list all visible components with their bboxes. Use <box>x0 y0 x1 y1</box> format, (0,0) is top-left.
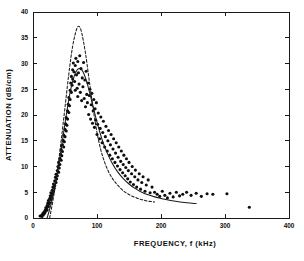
data-point <box>115 141 118 144</box>
axis-ticks <box>33 12 289 218</box>
data-point <box>129 180 132 183</box>
data-point <box>76 87 79 90</box>
x-tick-label: 400 <box>284 222 295 229</box>
data-point <box>102 120 105 123</box>
data-point <box>109 143 112 146</box>
data-point <box>140 181 143 184</box>
data-point <box>101 131 104 134</box>
data-point <box>85 70 88 73</box>
data-point <box>122 154 125 157</box>
data-point <box>178 194 181 197</box>
data-point <box>89 118 92 121</box>
data-point <box>132 183 135 186</box>
data-point <box>185 191 188 194</box>
data-point <box>93 126 96 129</box>
data-point <box>110 133 113 136</box>
data-point <box>168 192 171 195</box>
data-point <box>211 193 214 196</box>
y-tick-label: 5 <box>24 189 28 196</box>
x-tick-label: 300 <box>220 222 231 229</box>
data-point <box>206 192 209 195</box>
data-point <box>92 98 95 101</box>
data-point <box>47 205 50 208</box>
x-tick-label: 100 <box>92 222 103 229</box>
data-point <box>76 60 79 63</box>
y-axis-tick-labels: 0510152025303540 <box>21 8 29 221</box>
data-point <box>127 161 130 164</box>
data-point <box>81 85 84 88</box>
data-point <box>143 190 146 193</box>
data-point <box>161 190 164 193</box>
data-point <box>136 178 139 181</box>
data-point <box>65 124 68 127</box>
y-tick-label: 10 <box>21 163 29 170</box>
data-point <box>79 91 82 94</box>
data-point <box>130 172 133 175</box>
data-point <box>133 175 136 178</box>
data-point <box>74 64 77 67</box>
data-point <box>125 157 128 160</box>
data-point <box>120 150 123 153</box>
scatter-plot-canvas: 0100200300400 0510152025303540 FREQUENCY… <box>0 0 304 261</box>
data-point <box>111 157 114 160</box>
data-point <box>86 101 89 104</box>
data-point <box>172 195 175 198</box>
data-point <box>150 186 153 189</box>
y-tick-label: 0 <box>24 214 28 221</box>
data-point <box>63 140 66 143</box>
data-point <box>82 61 85 64</box>
data-point <box>195 192 198 195</box>
data-point <box>124 174 127 177</box>
data-point <box>91 122 94 125</box>
data-point <box>63 135 66 138</box>
data-point <box>66 118 69 121</box>
data-point <box>73 80 76 83</box>
data-point <box>78 83 81 86</box>
data-point <box>190 194 193 197</box>
data-point <box>138 172 141 175</box>
data-point <box>200 195 203 198</box>
data-point <box>65 129 68 132</box>
data-point <box>166 196 169 199</box>
plot-frame <box>33 12 289 218</box>
y-tick-label: 20 <box>21 111 29 118</box>
data-point <box>112 137 115 140</box>
data-point <box>81 76 84 79</box>
y-tick-label: 15 <box>21 137 29 144</box>
y-tick-label: 35 <box>21 34 29 41</box>
data-point <box>117 145 120 148</box>
data-point <box>84 105 87 108</box>
data-point <box>121 171 124 174</box>
x-tick-label: 0 <box>31 222 35 229</box>
data-point <box>76 95 79 98</box>
data-point <box>116 164 119 167</box>
data-point <box>67 111 70 114</box>
data-point <box>111 147 114 150</box>
data-point <box>80 99 83 102</box>
data-point <box>99 116 102 119</box>
data-point <box>114 152 117 155</box>
y-tick-label: 40 <box>21 8 29 15</box>
data-point <box>145 183 148 186</box>
data-point <box>72 61 75 64</box>
data-point <box>142 175 145 178</box>
data-point <box>118 168 121 171</box>
data-point <box>119 160 122 163</box>
x-axis-title: FREQUENCY, f (kHz) <box>134 239 216 248</box>
data-point <box>117 156 120 159</box>
data-point <box>124 166 127 169</box>
data-point <box>131 165 134 168</box>
data-point <box>175 191 178 194</box>
data-point <box>113 161 116 164</box>
y-tick-label: 30 <box>21 60 29 67</box>
data-point <box>95 101 98 104</box>
data-point <box>126 177 129 180</box>
data-point <box>134 169 137 172</box>
fitted-curves <box>47 26 196 218</box>
data-point <box>107 129 110 132</box>
data-point <box>181 193 184 196</box>
data-point <box>153 191 156 194</box>
data-point <box>163 194 166 197</box>
attenuation-vs-frequency-figure: 0100200300400 0510152025303540 FREQUENCY… <box>0 0 304 261</box>
data-point <box>104 135 107 138</box>
